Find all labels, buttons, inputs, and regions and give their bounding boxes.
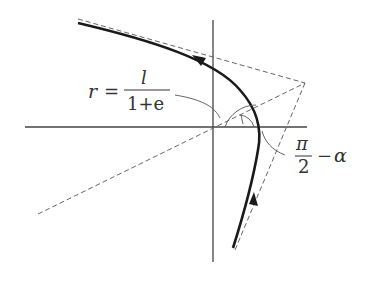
asymptote-through-origin xyxy=(38,83,305,214)
tick-angle xyxy=(241,115,243,124)
label-equals: = xyxy=(104,81,119,102)
label-minus: − xyxy=(317,145,332,166)
label-angle: π 2 − α xyxy=(295,133,347,177)
arc-pi-half-minus-alpha xyxy=(262,131,285,155)
hyperbola-branch xyxy=(78,23,259,248)
asymptote-lower xyxy=(235,83,305,250)
label-numerator: l xyxy=(141,67,147,88)
label-pi: π xyxy=(295,133,309,154)
label-r: r xyxy=(88,80,99,102)
label-two: 2 xyxy=(298,156,309,177)
asymptote-upper xyxy=(78,19,305,83)
arrow-up-icon xyxy=(249,192,258,206)
label-r-formula: r = l 1+e xyxy=(88,67,170,114)
label-denominator: 1+e xyxy=(127,93,164,114)
hyperbola-diagram: r = l 1+e π 2 − α xyxy=(0,0,373,281)
label-alpha: α xyxy=(334,144,347,166)
